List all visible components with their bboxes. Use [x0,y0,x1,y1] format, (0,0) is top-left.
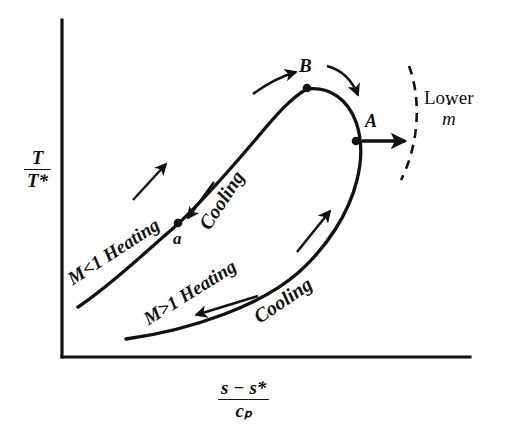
mdot-overdot-icon [447,102,450,105]
curve-point-markers [174,84,361,228]
subsonic-branch [78,89,307,307]
x-axis-label: s − s* cₚ [218,378,269,421]
point-label-a: a [173,230,182,247]
x-axis-denominator: cₚ [218,400,269,421]
y-axis-denominator: T* [24,170,51,191]
arrow-heating-toward-B [253,72,296,94]
rayleigh-line-figure: T T* s − s* cₚ B A a M<1 Heating Cooling… [0,0,512,434]
point-marker-B [303,84,312,93]
arrow-cooling-B-to-A [327,66,358,95]
x-axis-numerator: s − s* [218,378,269,400]
figure-canvas [0,0,512,434]
point-label-A: A [365,112,377,130]
point-label-B: B [299,56,312,75]
lower-mdot-annotation: Lower m [424,88,474,128]
y-axis-numerator: T [24,148,51,170]
point-marker-a [174,219,183,228]
arrow-heating-subsonic [133,164,166,200]
y-axis-label: T T* [24,148,51,191]
direction-arrows [133,66,405,315]
mdot-letter: m [442,108,456,129]
point-marker-A [352,137,361,146]
mdot-symbol: m [424,109,474,128]
lower-mdot-dashed-arc [401,66,417,180]
